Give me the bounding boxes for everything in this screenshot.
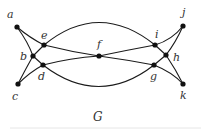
graph-edge xyxy=(17,27,44,45)
graph-diagram: abcdefghijkG xyxy=(0,0,201,129)
graph-edge xyxy=(43,56,99,65)
graph-node-i xyxy=(152,42,157,47)
graph-edge xyxy=(99,56,154,65)
node-label-h: h xyxy=(173,51,180,64)
graph-node-e xyxy=(41,42,46,47)
node-label-a: a xyxy=(7,8,14,21)
graph-edge xyxy=(154,65,183,84)
graph-caption: G xyxy=(93,110,103,124)
node-label-c: c xyxy=(12,90,18,103)
graph-edge xyxy=(43,65,154,87)
node-label-i: i xyxy=(155,28,159,41)
graph-node-k xyxy=(180,81,185,86)
graph-node-b xyxy=(30,53,35,58)
node-label-f: f xyxy=(96,38,103,51)
node-label-j: j xyxy=(179,6,186,19)
graph-node-a xyxy=(14,24,19,29)
graph-edge xyxy=(44,45,99,56)
node-label-g: g xyxy=(150,70,157,83)
node-label-e: e xyxy=(41,29,48,42)
node-label-b: b xyxy=(20,50,27,63)
graph-node-c xyxy=(15,81,20,86)
node-label-k: k xyxy=(180,89,187,102)
graph-node-g xyxy=(151,62,156,67)
graph-node-j xyxy=(180,23,185,28)
graph-edge xyxy=(99,45,155,56)
node-label-d: d xyxy=(38,70,45,83)
graph-node-d xyxy=(40,62,45,67)
graph-node-f xyxy=(96,53,101,58)
graph-node-h xyxy=(163,52,168,57)
